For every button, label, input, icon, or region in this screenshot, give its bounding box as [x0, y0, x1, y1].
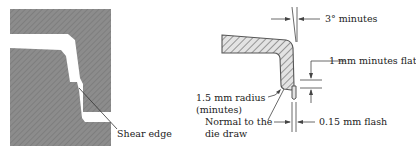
molded-part-section	[222, 35, 294, 90]
flash-label: 0.15 mm flash	[319, 116, 387, 127]
radius-label-line2: (minutes)	[196, 104, 242, 115]
arrowhead-icon	[276, 89, 281, 94]
arrowhead-icon	[309, 89, 313, 95]
arrowhead-icon	[285, 17, 291, 21]
arrowhead-icon	[298, 17, 304, 21]
shear-edge-figure: Shear edge	[10, 9, 172, 146]
diagram-canvas: Shear edge 3° minutes 1 mm minutes flat …	[0, 0, 416, 153]
normal-label-line1: Normal to the	[205, 116, 273, 127]
flash-tab	[292, 86, 296, 100]
radius-label-line1: 1.5 mm radius	[196, 92, 266, 103]
flat-label: 1 mm minutes flat	[329, 55, 416, 66]
arrowhead-icon	[297, 120, 303, 124]
arrowhead-icon	[309, 73, 313, 79]
normal-label-line2: die draw	[205, 128, 247, 139]
draft-ext-line-1	[292, 7, 296, 42]
draft-label: 3° minutes	[325, 13, 378, 24]
arrowhead-icon	[285, 120, 291, 124]
part-edge-figure: 3° minutes 1 mm minutes flat 0.15 mm fla…	[196, 7, 416, 139]
shear-edge-label: Shear edge	[117, 128, 172, 139]
